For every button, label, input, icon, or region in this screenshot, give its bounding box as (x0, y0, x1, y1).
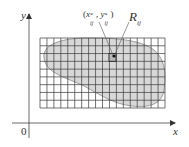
rect-label: Rij (129, 10, 141, 27)
region-d (44, 38, 165, 106)
y-sub: ij (105, 20, 108, 26)
sample-point-label: (x*ij, y*ij) (83, 10, 114, 19)
x-axis-label: x (173, 126, 178, 137)
y-sup: * (105, 12, 108, 18)
subrectangle-rij (109, 54, 116, 62)
y-axis-label: y (21, 10, 26, 21)
x-sub: ij (90, 20, 93, 26)
origin-label: 0 (21, 126, 27, 137)
region-partition-diagram (0, 0, 189, 147)
rect-label-sub: ij (137, 19, 141, 27)
rect-label-main: R (129, 9, 137, 24)
x-sup: * (90, 12, 93, 18)
paren-close: ) (111, 9, 114, 19)
